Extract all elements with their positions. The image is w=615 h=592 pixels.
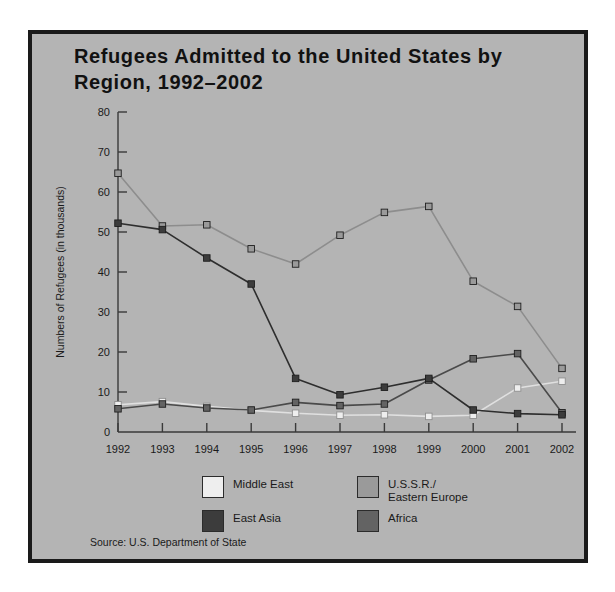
y-axis-title-text: Numbers of Refugees (in thousands) <box>54 186 66 358</box>
data-point-marker <box>337 232 344 239</box>
data-point-marker <box>426 413 433 420</box>
data-point-marker <box>292 410 299 417</box>
y-axis-ticks <box>118 112 127 392</box>
legend-item-middle-east[interactable]: Middle East <box>202 476 293 502</box>
x-tick-label: 2000 <box>461 443 485 455</box>
chart-poster: Refugees Admitted to the United States b… <box>0 0 615 592</box>
legend-label-ussr-eastern-europe: U.S.S.R./ Eastern Europe <box>388 476 468 504</box>
x-tick-label: 1992 <box>106 443 130 455</box>
y-tick-label: 60 <box>98 186 110 198</box>
data-point-marker <box>381 209 388 216</box>
x-tick-label: 1999 <box>417 443 441 455</box>
data-point-marker <box>559 412 566 419</box>
y-tick-label: 50 <box>98 226 110 238</box>
x-axis-tick-labels: 1992199319941995199619971998199920002001… <box>106 443 574 455</box>
data-point-marker <box>337 412 344 419</box>
data-point-marker <box>115 220 122 227</box>
y-tick-label: 20 <box>98 346 110 358</box>
x-axis-ticks <box>118 423 562 432</box>
legend-item-africa[interactable]: Africa <box>357 510 468 536</box>
legend-swatch-ussr-eastern-europe <box>357 476 379 498</box>
data-point-marker <box>292 261 299 268</box>
data-point-marker <box>292 375 299 382</box>
data-point-marker <box>248 407 255 414</box>
series-line-east-asia <box>118 223 562 415</box>
data-point-marker <box>159 401 166 408</box>
data-point-marker <box>426 203 433 210</box>
legend-item-ussr-eastern-europe[interactable]: U.S.S.R./ Eastern Europe <box>357 476 468 502</box>
data-point-marker <box>470 407 477 414</box>
x-tick-label: 2001 <box>505 443 529 455</box>
data-point-marker <box>337 402 344 409</box>
x-tick-label: 1993 <box>150 443 174 455</box>
data-point-marker <box>115 170 122 177</box>
data-point-marker <box>381 401 388 408</box>
legend-label-east-asia: East Asia <box>233 510 281 525</box>
legend-column-right: U.S.S.R./ Eastern Europe Africa <box>357 476 468 544</box>
data-point-marker <box>159 226 166 233</box>
source-note: Source: U.S. Department of State <box>90 536 246 548</box>
x-tick-label: 2002 <box>550 443 574 455</box>
chart-legend: Middle East East Asia U.S.S.R./ Eastern … <box>202 476 542 538</box>
data-point-marker <box>559 378 566 385</box>
data-point-marker <box>248 246 255 253</box>
legend-swatch-east-asia <box>202 510 224 532</box>
data-point-marker <box>559 365 566 372</box>
data-point-marker <box>248 281 255 288</box>
data-point-marker <box>514 385 521 392</box>
x-tick-label: 1995 <box>239 443 263 455</box>
legend-item-east-asia[interactable]: East Asia <box>202 510 293 536</box>
axis-lines <box>118 112 576 432</box>
data-point-marker <box>337 392 344 399</box>
y-tick-label: 10 <box>98 386 110 398</box>
data-point-marker <box>426 375 433 382</box>
data-point-marker <box>514 410 521 417</box>
data-point-marker <box>292 399 299 406</box>
data-point-marker <box>204 405 211 412</box>
y-axis-title: Numbers of Refugees (in thousands) <box>54 186 66 358</box>
series-lines <box>118 173 562 416</box>
y-tick-label: 80 <box>98 106 110 118</box>
legend-swatch-africa <box>357 510 379 532</box>
y-tick-label: 0 <box>104 426 110 438</box>
data-point-marker <box>115 406 122 413</box>
y-tick-label: 40 <box>98 266 110 278</box>
data-point-marker <box>381 412 388 419</box>
x-tick-label: 1998 <box>372 443 396 455</box>
data-point-marker <box>204 222 211 229</box>
x-tick-label: 1996 <box>283 443 307 455</box>
y-tick-label: 70 <box>98 146 110 158</box>
data-point-marker <box>204 255 211 262</box>
x-tick-label: 1994 <box>195 443 219 455</box>
y-axis-tick-labels: 01020304050607080 <box>98 106 110 438</box>
data-point-marker <box>470 278 477 285</box>
legend-swatch-middle-east <box>202 476 224 498</box>
data-point-marker <box>514 350 521 357</box>
data-point-marker <box>514 303 521 310</box>
data-point-marker <box>470 356 477 363</box>
series-line-ussr-eastern-europe <box>118 173 562 368</box>
data-point-marker <box>381 384 388 391</box>
poster-frame: Refugees Admitted to the United States b… <box>28 30 588 563</box>
y-tick-label: 30 <box>98 306 110 318</box>
legend-label-middle-east: Middle East <box>233 476 293 491</box>
legend-label-africa: Africa <box>388 510 417 525</box>
legend-column-left: Middle East East Asia <box>202 476 293 544</box>
x-tick-label: 1997 <box>328 443 352 455</box>
